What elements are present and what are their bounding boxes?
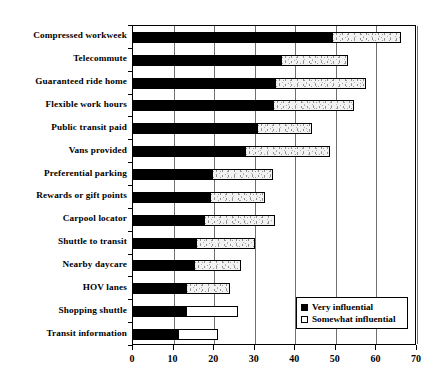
- bar-row: [133, 26, 415, 49]
- stacked-bar[interactable]: [133, 329, 218, 340]
- chart-legend: Very influential Somewhat influential: [296, 297, 408, 329]
- bar-row: [133, 117, 415, 140]
- x-axis-tick: [416, 345, 417, 350]
- bar-row: [133, 72, 415, 95]
- bar-segment-very-influential: [133, 238, 196, 249]
- stacked-bar[interactable]: [133, 78, 366, 89]
- bar-segment-very-influential: [133, 329, 178, 340]
- y-axis-label: Flexible work hours: [46, 99, 127, 109]
- x-axis-tick: [335, 345, 336, 350]
- bar-row: [133, 255, 415, 278]
- legend-item-very-influential: Very influential: [301, 301, 403, 313]
- bar-segment-somewhat-influential: [332, 32, 401, 43]
- x-axis-tick: [294, 345, 295, 350]
- y-axis-label: HOV lanes: [83, 282, 127, 292]
- x-axis-label: 70: [401, 353, 431, 364]
- stacked-bar[interactable]: [133, 192, 265, 203]
- x-axis-label: 60: [360, 353, 390, 364]
- bar-segment-somewhat-influential: [273, 100, 354, 111]
- legend-item-somewhat-influential: Somewhat influential: [301, 313, 403, 325]
- x-axis-label: 20: [198, 353, 228, 364]
- legend-swatch-very-influential: [301, 304, 308, 311]
- bar-segment-somewhat-influential: [257, 123, 312, 134]
- x-axis-label: 0: [117, 353, 147, 364]
- bar-row: [133, 163, 415, 186]
- bar-segment-very-influential: [133, 306, 186, 317]
- y-axis-label: Vans provided: [69, 145, 127, 155]
- stacked-bar[interactable]: [133, 146, 330, 157]
- stacked-bar[interactable]: [133, 306, 238, 317]
- x-axis-tick: [375, 345, 376, 350]
- x-axis-label: 40: [279, 353, 309, 364]
- bar-segment-somewhat-influential: [275, 78, 366, 89]
- stacked-bar[interactable]: [133, 55, 348, 66]
- y-axis-label: Transit information: [46, 328, 127, 338]
- bar-segment-very-influential: [133, 146, 245, 157]
- chart-container: Compressed workweekTelecommuteGuaranteed…: [0, 0, 437, 383]
- stacked-bar[interactable]: [133, 260, 241, 271]
- bar-segment-somewhat-influential: [186, 283, 231, 294]
- x-axis-label: 30: [239, 353, 269, 364]
- x-axis-label: 10: [158, 353, 188, 364]
- stacked-bar[interactable]: [133, 32, 401, 43]
- y-axis-label: Rewards or gift points: [36, 190, 127, 200]
- legend-swatch-somewhat-influential: [301, 316, 308, 323]
- bar-row: [133, 186, 415, 209]
- bar-segment-somewhat-influential: [281, 55, 348, 66]
- gridline-70: [417, 26, 418, 344]
- stacked-bar[interactable]: [133, 169, 273, 180]
- stacked-bar[interactable]: [133, 283, 230, 294]
- bar-row: [133, 209, 415, 232]
- x-axis-tick: [213, 345, 214, 350]
- bar-segment-very-influential: [133, 260, 194, 271]
- bar-segment-very-influential: [133, 32, 332, 43]
- x-axis-tick: [173, 345, 174, 350]
- bar-segment-somewhat-influential: [245, 146, 330, 157]
- y-axis-label: Public transit paid: [51, 122, 127, 132]
- bar-segment-very-influential: [133, 192, 210, 203]
- bar-segment-somewhat-influential: [186, 306, 239, 317]
- y-axis-label: Compressed workweek: [33, 30, 127, 40]
- legend-label-somewhat-influential: Somewhat influential: [312, 314, 395, 324]
- bar-segment-somewhat-influential: [210, 192, 265, 203]
- bar-segment-somewhat-influential: [204, 215, 275, 226]
- y-axis-label: Guaranteed ride home: [35, 76, 127, 86]
- bar-row: [133, 95, 415, 118]
- y-axis-label: Nearby daycare: [63, 259, 127, 269]
- x-axis-tick: [132, 345, 133, 350]
- bar-segment-very-influential: [133, 169, 212, 180]
- bar-row: [133, 140, 415, 163]
- bar-segment-very-influential: [133, 123, 257, 134]
- y-axis-label: Preferential parking: [44, 168, 127, 178]
- bar-segment-somewhat-influential: [196, 238, 255, 249]
- legend-label-very-influential: Very influential: [312, 302, 373, 312]
- bar-row: [133, 49, 415, 72]
- bar-segment-somewhat-influential: [212, 169, 273, 180]
- bar-segment-somewhat-influential: [178, 329, 219, 340]
- bar-segment-very-influential: [133, 215, 204, 226]
- stacked-bar[interactable]: [133, 215, 275, 226]
- stacked-bar[interactable]: [133, 100, 354, 111]
- bar-segment-very-influential: [133, 55, 281, 66]
- x-axis-tick: [254, 345, 255, 350]
- y-axis-label: Telecommute: [73, 53, 127, 63]
- y-axis-label: Shopping shuttle: [58, 305, 127, 315]
- x-axis-label: 50: [320, 353, 350, 364]
- bar-segment-very-influential: [133, 283, 186, 294]
- bar-segment-somewhat-influential: [194, 260, 241, 271]
- y-axis-label: Shuttle to transit: [58, 236, 127, 246]
- bar-segment-very-influential: [133, 100, 273, 111]
- bar-segment-very-influential: [133, 78, 275, 89]
- y-axis-label: Carpool locator: [63, 213, 127, 223]
- stacked-bar[interactable]: [133, 238, 255, 249]
- stacked-bar[interactable]: [133, 123, 312, 134]
- bar-row: [133, 232, 415, 255]
